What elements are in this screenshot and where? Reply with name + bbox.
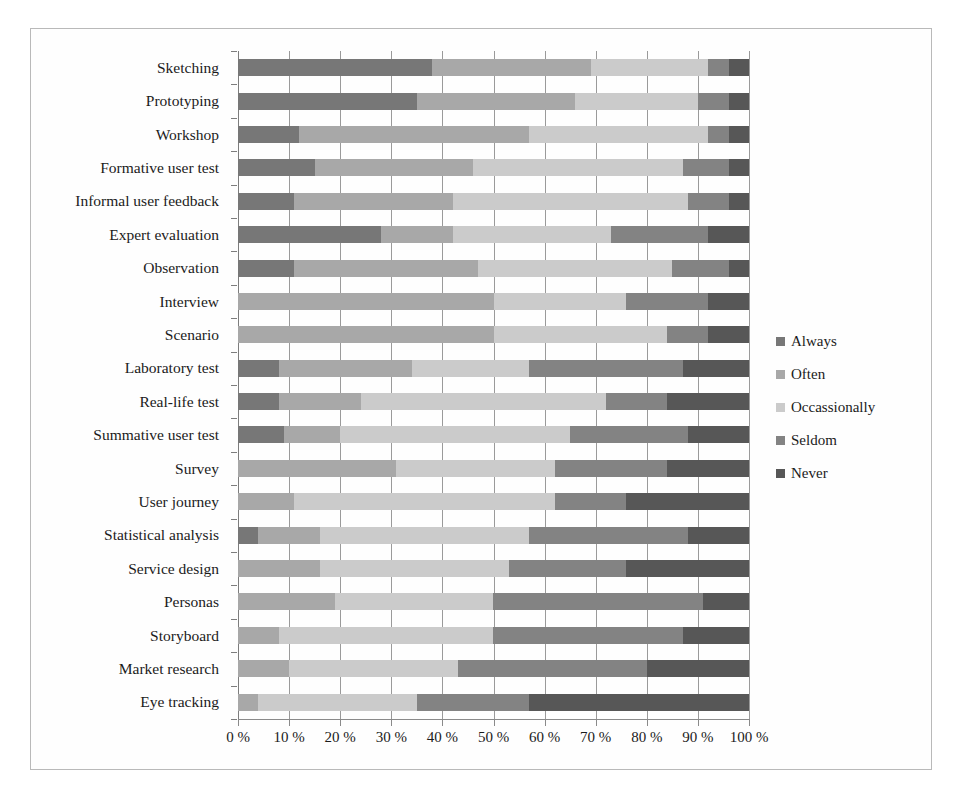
bar-segment-occassionally[interactable]	[258, 694, 416, 711]
bar-segment-seldom[interactable]	[493, 627, 682, 644]
bar-segment-seldom[interactable]	[529, 527, 687, 544]
bar-segment-often[interactable]	[238, 593, 335, 610]
bar-segment-never[interactable]	[688, 527, 749, 544]
legend-item[interactable]: Never	[776, 457, 926, 490]
bar-segment-never[interactable]	[626, 560, 749, 577]
bar-segment-often[interactable]	[238, 694, 258, 711]
bar-segment-always[interactable]	[238, 360, 279, 377]
stacked-bar[interactable]	[238, 493, 749, 510]
bar-segment-never[interactable]	[529, 694, 749, 711]
bar-segment-occassionally[interactable]	[412, 360, 530, 377]
bar-segment-never[interactable]	[688, 426, 749, 443]
bar-segment-often[interactable]	[279, 393, 361, 410]
bar-segment-never[interactable]	[703, 593, 749, 610]
stacked-bar[interactable]	[238, 226, 749, 243]
bar-segment-always[interactable]	[238, 393, 279, 410]
bar-segment-occassionally[interactable]	[335, 593, 493, 610]
legend-item[interactable]: Always	[776, 325, 926, 358]
bar-segment-often[interactable]	[432, 59, 590, 76]
bar-segment-often[interactable]	[238, 660, 289, 677]
bar-segment-never[interactable]	[708, 326, 749, 343]
stacked-bar[interactable]	[238, 560, 749, 577]
bar-segment-never[interactable]	[729, 260, 749, 277]
bar-segment-often[interactable]	[315, 159, 473, 176]
stacked-bar[interactable]	[238, 159, 749, 176]
stacked-bar[interactable]	[238, 260, 749, 277]
bar-segment-never[interactable]	[683, 360, 749, 377]
stacked-bar[interactable]	[238, 660, 749, 677]
bar-segment-always[interactable]	[238, 159, 315, 176]
bar-segment-occassionally[interactable]	[320, 527, 530, 544]
bar-segment-never[interactable]	[667, 460, 749, 477]
bar-segment-seldom[interactable]	[698, 93, 729, 110]
bar-segment-always[interactable]	[238, 193, 294, 210]
stacked-bar[interactable]	[238, 59, 749, 76]
bar-segment-always[interactable]	[238, 59, 432, 76]
bar-segment-often[interactable]	[294, 260, 478, 277]
stacked-bar[interactable]	[238, 360, 749, 377]
bar-segment-occassionally[interactable]	[289, 660, 458, 677]
bar-segment-seldom[interactable]	[529, 360, 682, 377]
bar-segment-occassionally[interactable]	[478, 260, 672, 277]
bar-segment-never[interactable]	[626, 493, 749, 510]
bar-segment-often[interactable]	[238, 460, 396, 477]
stacked-bar[interactable]	[238, 193, 749, 210]
bar-segment-seldom[interactable]	[708, 126, 728, 143]
bar-segment-seldom[interactable]	[417, 694, 529, 711]
bar-segment-never[interactable]	[708, 293, 749, 310]
bar-segment-never[interactable]	[647, 660, 749, 677]
legend-item[interactable]: Often	[776, 358, 926, 391]
bar-segment-never[interactable]	[729, 93, 749, 110]
bar-segment-seldom[interactable]	[555, 460, 667, 477]
bar-segment-never[interactable]	[729, 159, 749, 176]
stacked-bar[interactable]	[238, 393, 749, 410]
stacked-bar[interactable]	[238, 93, 749, 110]
bar-segment-always[interactable]	[238, 527, 258, 544]
bar-segment-always[interactable]	[238, 93, 417, 110]
bar-segment-often[interactable]	[279, 360, 412, 377]
bar-segment-often[interactable]	[238, 293, 494, 310]
bar-segment-seldom[interactable]	[493, 593, 703, 610]
bar-segment-occassionally[interactable]	[320, 560, 509, 577]
bar-segment-always[interactable]	[238, 126, 299, 143]
bar-segment-occassionally[interactable]	[529, 126, 708, 143]
bar-segment-occassionally[interactable]	[396, 460, 554, 477]
stacked-bar[interactable]	[238, 326, 749, 343]
bar-segment-often[interactable]	[238, 493, 294, 510]
bar-segment-always[interactable]	[238, 226, 381, 243]
bar-segment-seldom[interactable]	[509, 560, 627, 577]
stacked-bar[interactable]	[238, 460, 749, 477]
bar-segment-often[interactable]	[238, 627, 279, 644]
bar-segment-never[interactable]	[729, 126, 749, 143]
bar-segment-occassionally[interactable]	[453, 226, 611, 243]
stacked-bar[interactable]	[238, 426, 749, 443]
bar-segment-often[interactable]	[238, 326, 494, 343]
bar-segment-never[interactable]	[667, 393, 749, 410]
bar-segment-always[interactable]	[238, 426, 284, 443]
bar-segment-always[interactable]	[238, 260, 294, 277]
legend-item[interactable]: Seldom	[776, 424, 926, 457]
bar-segment-occassionally[interactable]	[494, 293, 627, 310]
bar-segment-seldom[interactable]	[688, 193, 729, 210]
bar-segment-occassionally[interactable]	[453, 193, 688, 210]
legend-item[interactable]: Occassionally	[776, 391, 926, 424]
bar-segment-seldom[interactable]	[672, 260, 728, 277]
bar-segment-seldom[interactable]	[555, 493, 627, 510]
bar-segment-often[interactable]	[238, 560, 320, 577]
stacked-bar[interactable]	[238, 694, 749, 711]
bar-segment-occassionally[interactable]	[340, 426, 570, 443]
bar-segment-often[interactable]	[294, 193, 452, 210]
bar-segment-seldom[interactable]	[708, 59, 728, 76]
bar-segment-seldom[interactable]	[606, 393, 667, 410]
bar-segment-often[interactable]	[381, 226, 453, 243]
bar-segment-seldom[interactable]	[683, 159, 729, 176]
bar-segment-occassionally[interactable]	[279, 627, 494, 644]
bar-segment-seldom[interactable]	[570, 426, 688, 443]
bar-segment-often[interactable]	[299, 126, 529, 143]
bar-segment-never[interactable]	[729, 193, 749, 210]
bar-segment-often[interactable]	[284, 426, 340, 443]
stacked-bar[interactable]	[238, 293, 749, 310]
bar-segment-seldom[interactable]	[458, 660, 647, 677]
bar-segment-never[interactable]	[708, 226, 749, 243]
bar-segment-occassionally[interactable]	[575, 93, 698, 110]
